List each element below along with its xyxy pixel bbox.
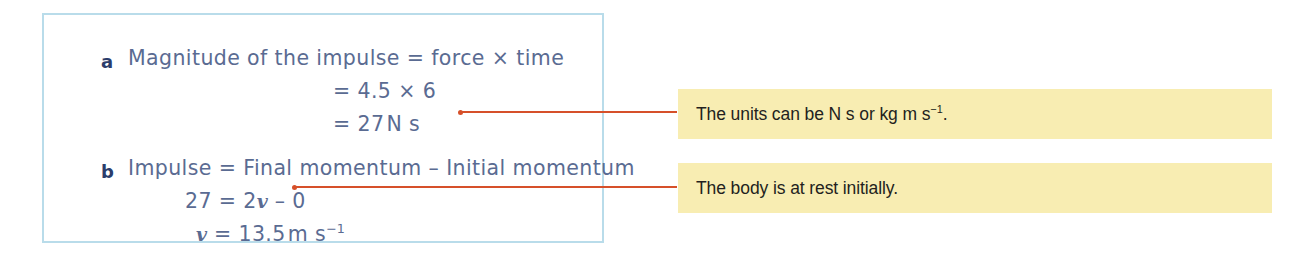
part-b-line-2-lhs: 27 = 2 <box>185 189 257 213</box>
part-b-label: b <box>101 161 114 182</box>
part-a-line-1: Magnitude of the impulse = force × time <box>128 46 564 70</box>
connector-line-2 <box>296 186 677 188</box>
part-b-line-3-value: = 13.5 <box>207 222 286 246</box>
part-b-line-2-rhs: – 0 <box>268 189 306 213</box>
annotation-note-1-text-after: . <box>943 104 948 124</box>
part-b-line-2-variable: v <box>257 190 268 212</box>
annotation-note-2-text-before: The body is at rest initially. <box>696 178 898 198</box>
part-a-label: a <box>101 51 113 72</box>
part-b-line-3-exponent: −1 <box>326 221 345 236</box>
annotation-note-2-text: The body is at rest initially. <box>678 178 898 199</box>
part-a-line-3-value: = 27 <box>333 112 384 136</box>
part-b-line-3: v = 13.5 m s−1 <box>196 222 345 246</box>
annotation-note-1-text: The units can be N s or kg m s−1. <box>678 104 947 125</box>
part-a-line-3-units: N s <box>386 112 420 136</box>
annotation-note-2: The body is at rest initially. <box>678 163 1272 213</box>
part-b-line-1: Impulse = Final momentum – Initial momen… <box>128 156 635 180</box>
worked-example-figure: a Magnitude of the impulse = force × tim… <box>0 0 1295 265</box>
annotation-note-1-text-before: The units can be N s or kg m s <box>696 104 930 124</box>
connector-line-1 <box>462 111 677 113</box>
part-a-line-2: = 4.5 × 6 <box>333 79 436 103</box>
part-b-line-3-units: m s <box>288 222 326 246</box>
annotation-note-1: The units can be N s or kg m s−1. <box>678 89 1272 139</box>
part-b-line-3-variable: v <box>196 223 207 245</box>
solution-box: a Magnitude of the impulse = force × tim… <box>42 13 604 243</box>
annotation-note-1-exponent: −1 <box>930 103 942 115</box>
part-b-line-2: 27 = 2v – 0 <box>185 189 306 213</box>
part-a-line-3: = 27 N s <box>333 112 420 136</box>
